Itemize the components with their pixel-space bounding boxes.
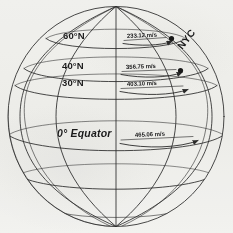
speed-arrow-60n — [123, 42, 172, 46]
speed-40n-label: 356.75 m/s — [126, 63, 156, 70]
lat-30n-label: 30°N — [62, 78, 84, 88]
globe-diagram-figure: 60°N 40°N 30°N 0° Equator 233.12 m/s 356… — [0, 0, 233, 233]
speed-30n-label: 403.10 m/s — [127, 80, 157, 87]
meridian-r2 — [116, 7, 212, 227]
marker-nyc-point — [178, 68, 183, 73]
speed-equator-label: 465.06 m/s — [135, 131, 165, 138]
lat-60n-label: 60°N — [63, 31, 85, 41]
lat-40n-label: 40°N — [62, 61, 84, 71]
meridian-r1 — [116, 7, 176, 227]
globe-wireframe — [0, 0, 233, 233]
speed-60n-label: 233.12 m/s — [127, 32, 157, 39]
speed-arrow-30n — [120, 90, 188, 95]
marker-60n-point — [169, 36, 174, 41]
lat-equator-label: 0° Equator — [57, 128, 112, 139]
